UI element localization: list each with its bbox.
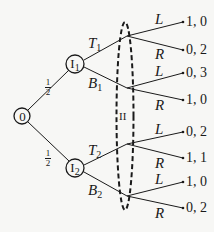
action-t2: T2: [88, 143, 101, 160]
prob-upper: 12: [44, 78, 52, 97]
payoff: 1, 0: [186, 175, 207, 189]
payoff: 0, 2: [186, 125, 207, 139]
payoff: 0, 3: [186, 66, 207, 80]
payoff: 1, 0: [186, 15, 207, 29]
action-b1: B1: [88, 76, 102, 93]
action-l: L: [155, 64, 163, 79]
i2-label: I2: [68, 161, 82, 177]
action-l: L: [155, 172, 163, 187]
payoff: 1, 1: [186, 151, 207, 165]
game-tree-lines: [0, 0, 214, 232]
action-r: R: [155, 156, 164, 171]
i1-label: I1: [68, 57, 82, 73]
action-r: R: [155, 206, 164, 221]
information-set-label: II: [119, 111, 126, 122]
action-r: R: [155, 98, 164, 113]
action-b2: B2: [88, 183, 102, 200]
action-l: L: [155, 122, 163, 137]
prob-lower: 12: [44, 149, 52, 168]
action-r: R: [155, 47, 164, 62]
action-l: L: [155, 12, 163, 27]
action-t1: T1: [88, 36, 101, 53]
payoff: 0, 2: [186, 43, 207, 57]
root-label: 0: [17, 110, 28, 123]
payoff: 0, 2: [186, 201, 207, 215]
payoff: 1, 0: [186, 93, 207, 107]
